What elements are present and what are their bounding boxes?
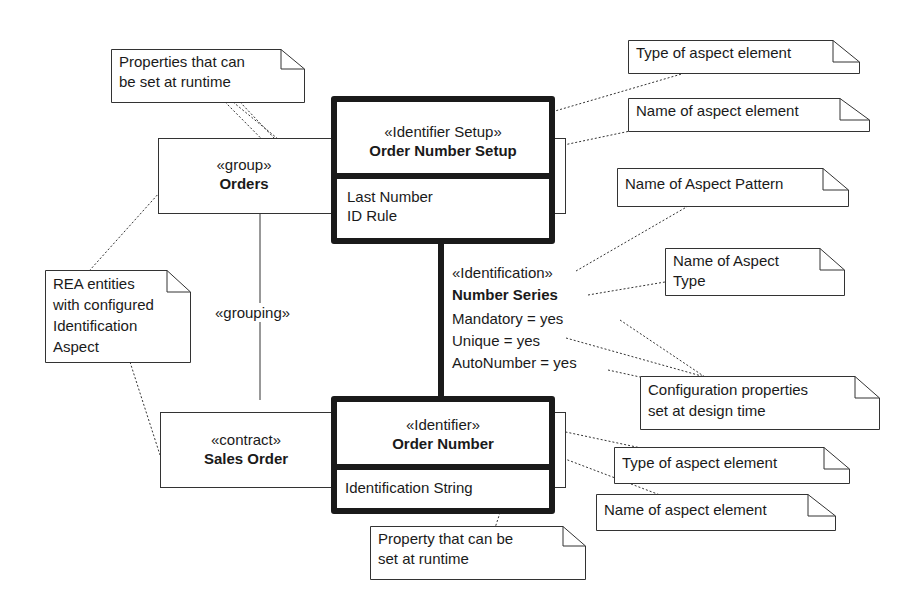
note-type-top[interactable]: Type of aspect element [628, 40, 860, 74]
attribute-identification-string: Identification String [345, 478, 473, 497]
note-runtime-property[interactable]: Property that can be set at runtime [370, 526, 586, 580]
identifier-name: Order Number [337, 434, 549, 453]
group-name: Orders [159, 174, 329, 193]
identifier-setup-stereotype: «Identifier Setup» [337, 122, 549, 141]
note-rea-entities[interactable]: REA entities with configured Identificat… [45, 270, 191, 363]
note-name-top[interactable]: Name of aspect element [628, 98, 870, 132]
identifier-stereotype: «Identifier» [337, 415, 549, 434]
property-unique: Unique = yes [452, 331, 540, 350]
compartment-divider [337, 173, 549, 179]
attribute-id-rule: ID Rule [347, 206, 397, 225]
association-stereotype: «Identification» [452, 263, 553, 282]
note-runtime-properties[interactable]: Properties that can be set at runtime [111, 49, 305, 103]
identifier-setup-name: Order Number Setup [337, 141, 549, 160]
compartment-divider [337, 464, 549, 470]
group-stereotype: «group» [159, 155, 329, 174]
contract-stereotype: «contract» [161, 430, 331, 449]
property-autonumber: AutoNumber = yes [452, 353, 577, 372]
note-aspect-pattern[interactable]: Name of Aspect Pattern [617, 168, 849, 207]
note-type-bottom[interactable]: Type of aspect element [614, 447, 850, 484]
note-configuration-properties[interactable]: Configuration properties set at design t… [640, 376, 880, 430]
grouping-label: «grouping» [215, 303, 290, 322]
association-name: Number Series [452, 285, 558, 304]
note-name-bottom[interactable]: Name of aspect element [596, 494, 836, 531]
identifier-setup-box[interactable]: «Identifier Setup» Order Number Setup La… [331, 96, 555, 244]
identifier-box[interactable]: «Identifier» Order Number Identification… [331, 396, 555, 514]
property-mandatory: Mandatory = yes [452, 309, 563, 328]
note-aspect-type[interactable]: Name of Aspect Type [665, 248, 845, 296]
attribute-last-number: Last Number [347, 187, 433, 206]
contract-name: Sales Order [161, 449, 331, 468]
